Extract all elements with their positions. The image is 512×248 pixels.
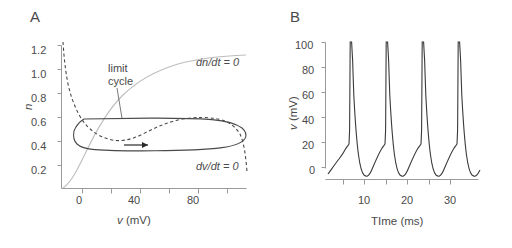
panel-b-y-axis-title-unit: (mV) xyxy=(287,96,299,124)
annotation-dvdt-nullcline: dv/dt = 0 xyxy=(196,160,239,173)
panel-b-y-axis-title: v (mV) xyxy=(287,96,299,130)
panel-b-ytick-60: 60 xyxy=(302,89,314,101)
limit-cycle-leader-line xyxy=(117,88,122,118)
panel-b-xtick-20: 20 xyxy=(401,194,413,206)
annotation-limit-cycle: limit cycle xyxy=(108,62,133,88)
panel-b-xtick-30: 30 xyxy=(444,194,456,206)
panel-b-ytick-20: 20 xyxy=(302,139,314,151)
panel-a-xtick-0: 0 xyxy=(76,194,82,206)
panel-a-ytick-0-8: 0.8 xyxy=(31,92,46,104)
annotation-dndt-nullcline: dn/dt = 0 xyxy=(196,56,239,69)
panel-a-ytick-0-4: 0.4 xyxy=(31,140,46,152)
panel-a-x-axis-title-unit: (mV) xyxy=(123,214,151,226)
curve-voltage-trace xyxy=(328,42,480,176)
panel-b-ytick-80: 80 xyxy=(302,64,314,76)
panel-a-ytick-0-2: 0.2 xyxy=(31,164,46,176)
panel-a-ytick-0-6: 0.6 xyxy=(31,116,46,128)
panel-a-plot xyxy=(0,0,512,248)
panel-a-ytick-1-2: 1.2 xyxy=(31,44,46,56)
panel-b-ytick-40: 40 xyxy=(302,114,314,126)
figure-container: A 1.2 1.0 0.8 0.6 0.4 0.2 n 0 40 80 v (m… xyxy=(0,0,512,248)
annotation-limit-cycle-line1: limit xyxy=(108,62,133,75)
panel-b-y-ticks xyxy=(322,43,326,168)
panel-a-xtick-40: 40 xyxy=(128,194,140,206)
panel-a-letter: A xyxy=(30,8,40,25)
panel-a-ytick-1-0: 1.0 xyxy=(31,68,46,80)
panel-b-ytick-0: 0 xyxy=(309,164,315,176)
panel-b-x-axis-title: TIme (ms) xyxy=(371,215,423,227)
panel-b-xtick-10: 10 xyxy=(358,194,370,206)
panel-a-xtick-80: 80 xyxy=(187,194,199,206)
panel-b-letter: B xyxy=(290,8,300,25)
flow-direction-arrow xyxy=(124,142,148,148)
panel-a-y-ticks xyxy=(58,46,62,166)
panel-b-x-ticks xyxy=(344,180,451,185)
panel-b-y-axis-title-symbol: v xyxy=(287,124,299,130)
panel-a-x-ticks xyxy=(83,189,228,194)
annotation-limit-cycle-line2: cycle xyxy=(108,75,133,88)
panel-a-y-axis-title: n xyxy=(22,104,34,110)
panel-b-plot xyxy=(0,0,512,248)
curve-limit-cycle xyxy=(74,118,246,151)
panel-a-x-axis-title: v (mV) xyxy=(117,214,151,226)
panel-b-ytick-100: 100 xyxy=(295,39,313,51)
